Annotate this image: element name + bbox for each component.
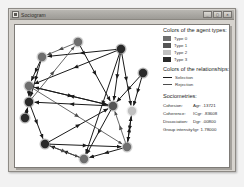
graph-node[interactable] (116, 44, 127, 55)
sociometric-value: ICgr: .83608 (193, 111, 217, 116)
edge-direction-arrow (34, 119, 39, 125)
edge-direction-arrow (83, 143, 88, 147)
agent-type-legend-item: Type 1 (163, 42, 229, 49)
graph-node[interactable] (138, 68, 149, 79)
edge-direction-arrow (92, 70, 98, 76)
sociometric-row: Group intensity:Igr: 1.78000 (163, 125, 229, 133)
graph-node[interactable] (108, 101, 119, 112)
node-circle[interactable] (117, 45, 125, 53)
maximize-button[interactable]: □ (213, 11, 222, 18)
edge-direction-arrow (74, 113, 80, 119)
edge-direction-arrow (73, 64, 79, 70)
graph-node[interactable] (24, 97, 35, 108)
app-window-icon (12, 11, 19, 18)
agent-type-legend-item: Type 0 (163, 35, 229, 42)
agent-type-legend-list: Type 0Type 1Type 2Type 3 (161, 35, 229, 63)
window-title: Sociogram (21, 12, 203, 18)
sociometric-label: Dissociation: (163, 119, 193, 124)
minimize-icon: _ (204, 12, 211, 17)
graph-node[interactable] (24, 81, 35, 92)
node-circle[interactable] (38, 53, 46, 61)
node-circle[interactable] (139, 69, 147, 77)
sociometric-row: Cohesion:Agr: .13721 (163, 101, 229, 109)
sociometric-value: Dgr: .00800 (193, 119, 216, 124)
node-circle[interactable] (41, 140, 49, 148)
sociogram-graph[interactable] (15, 25, 161, 167)
node-circle[interactable] (74, 38, 82, 46)
close-icon: × (224, 12, 231, 17)
agent-type-color-swatch (163, 50, 171, 55)
edge-direction-arrow (103, 150, 109, 155)
relationship-legend-list: SelectionRejection (161, 74, 229, 88)
graph-node[interactable] (79, 154, 90, 165)
sociometric-label: Group intensity: (163, 127, 193, 132)
sociogram-window: Sociogram _ □ × (8, 8, 236, 172)
relationship-legend-item: Rejection (163, 81, 229, 88)
sociometric-value: Agr: .13721 (193, 103, 216, 108)
agent-type-color-swatch (163, 43, 171, 48)
relationship-label: Rejection (175, 82, 193, 87)
node-circle[interactable] (25, 98, 33, 106)
edge-direction-arrow (75, 122, 81, 128)
agent-type-color-swatch (163, 57, 171, 62)
agent-type-label: Type 1 (174, 43, 187, 48)
agent-type-color-swatch (163, 36, 171, 41)
relationship-line-swatch (163, 84, 172, 85)
edge-direction-arrow (69, 102, 74, 106)
relationships-heading: Colors of the relationships: (163, 66, 229, 73)
relationship-legend-item: Selection (163, 74, 229, 81)
node-circle[interactable] (109, 102, 117, 110)
agent-type-label: Type 2 (174, 50, 187, 55)
window-controls: _ □ × (203, 11, 232, 18)
node-circle[interactable] (25, 82, 33, 90)
close-button[interactable]: × (223, 11, 232, 18)
minimize-button[interactable]: _ (203, 11, 212, 18)
agent-type-legend-item: Type 3 (163, 56, 229, 63)
node-circle[interactable] (21, 114, 29, 122)
edge-direction-arrow (27, 91, 31, 96)
relationship-line-swatch (163, 77, 172, 78)
node-circle[interactable] (123, 143, 131, 151)
sociometric-label: Coherence: (163, 111, 193, 116)
relationship-label: Selection (175, 75, 193, 80)
client-area: Colors of the agent types: Type 0Type 1T… (14, 24, 230, 168)
sociometric-row: Coherence:ICgr: .83608 (163, 109, 229, 117)
agent-type-legend-item: Type 2 (163, 49, 229, 56)
node-circle[interactable] (128, 107, 136, 115)
desktop-background: Sociogram _ □ × (0, 0, 244, 187)
graph-node[interactable] (37, 52, 48, 63)
client-right-shadow (230, 26, 232, 168)
agent-type-label: Type 0 (174, 36, 187, 41)
edge-direction-arrow (33, 76, 38, 82)
sociometric-label: Cohesion: (163, 103, 193, 108)
edge-direction-arrow (58, 46, 64, 52)
client-bottom-shadow (16, 168, 232, 170)
sociometric-value: Igr: 1.78000 (193, 127, 216, 132)
node-circle[interactable] (80, 155, 88, 163)
graph-node[interactable] (127, 106, 138, 117)
sociometrics-heading: Sociometries: (163, 93, 229, 100)
edge-direction-arrow (135, 88, 140, 94)
sociometric-row: Dissociation:Dgr: .00800 (163, 117, 229, 125)
sociometrics-list: Cohesion:Agr: .13721Coherence:ICgr: .836… (161, 101, 229, 133)
agent-types-heading: Colors of the agent types: (163, 27, 229, 34)
agent-type-label: Type 3 (174, 57, 187, 62)
legend-panel: Colors of the agent types: Type 0Type 1T… (161, 27, 229, 167)
graph-node[interactable] (122, 142, 133, 153)
window-title-bar[interactable]: Sociogram _ □ × (10, 10, 234, 20)
graph-node[interactable] (40, 139, 51, 150)
maximize-icon: □ (214, 12, 221, 17)
edge-direction-arrow (118, 124, 123, 130)
graph-node[interactable] (20, 113, 31, 124)
graph-node[interactable] (73, 37, 84, 48)
